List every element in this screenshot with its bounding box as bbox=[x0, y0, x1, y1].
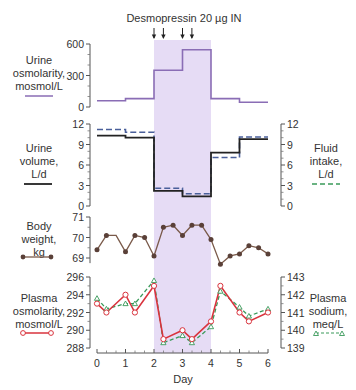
body-weight-label-2: weight, bbox=[21, 233, 57, 245]
urine-volume-tick-label: 9 bbox=[78, 139, 84, 151]
x-tick-label: 6 bbox=[265, 357, 271, 369]
plasma-osmolarity-point bbox=[265, 310, 270, 315]
plasma-osmolarity-point bbox=[151, 283, 156, 288]
plasma-osm-label-1: Plasma bbox=[21, 292, 59, 304]
dose-arrowhead bbox=[180, 35, 184, 40]
plasma-sodium-point bbox=[237, 305, 242, 310]
body-weight-point bbox=[171, 223, 176, 228]
plasma-tick-label: 141 bbox=[287, 307, 305, 319]
urine-volume-tick-label: 0 bbox=[287, 200, 293, 212]
plasma-tick-label: 142 bbox=[287, 289, 305, 301]
plasma-osmolarity-point bbox=[237, 310, 242, 315]
plasma-na-legend-marker bbox=[314, 331, 319, 336]
plasma-tick-label: 139 bbox=[287, 342, 305, 354]
urine-volume-tick-label: 3 bbox=[78, 180, 84, 192]
body-weight-point bbox=[152, 253, 157, 258]
plasma-osmolarity-point bbox=[161, 337, 166, 342]
body-weight-tick-label: 70 bbox=[72, 232, 84, 244]
plasma-osmolarity-point bbox=[246, 319, 251, 324]
chart-title: Desmopressin 20 µg IN bbox=[126, 12, 241, 24]
x-axis-label: Day bbox=[173, 373, 193, 385]
urine-volume-tick-label: 12 bbox=[287, 118, 299, 130]
plasma-na-label-1: Plasma bbox=[310, 292, 348, 304]
urine-volume-tick-label: 6 bbox=[78, 159, 84, 171]
plasma-osm-label-3: mosmol/L bbox=[15, 318, 63, 330]
plasma-osmolarity-point bbox=[208, 319, 213, 324]
plasma-sodium-point bbox=[94, 296, 99, 301]
plasma-osmolarity-point bbox=[104, 310, 109, 315]
body-weight-label-3: kg bbox=[33, 246, 45, 258]
body-weight-point bbox=[266, 251, 271, 256]
plasma-osmolarity-point bbox=[218, 283, 223, 288]
body-weight-legend-marker bbox=[49, 255, 54, 260]
body-weight-tick-label: 71 bbox=[72, 211, 84, 223]
body-weight-point bbox=[256, 245, 261, 250]
urine-volume-tick-label: 6 bbox=[287, 159, 293, 171]
urine-vol-label-1: Urine bbox=[26, 142, 52, 154]
body-weight-point bbox=[95, 247, 100, 252]
plasma-tick-label: 294 bbox=[66, 289, 84, 301]
x-tick-label: 2 bbox=[151, 357, 157, 369]
plasma-tick-label: 143 bbox=[287, 271, 305, 283]
plasma-osmolarity-point bbox=[94, 301, 99, 306]
body-weight-point bbox=[123, 249, 128, 254]
plasma-tick-label: 292 bbox=[66, 307, 84, 319]
body-weight-point bbox=[161, 225, 166, 230]
x-tick-label: 4 bbox=[208, 357, 214, 369]
body-weight-point bbox=[189, 223, 194, 228]
plasma-na-label-3: meq/L bbox=[313, 318, 344, 330]
fluid-intake-label-2: intake, bbox=[310, 155, 342, 167]
urine-osmolarity-tick-label: 600 bbox=[66, 38, 84, 50]
urine-osmolarity-tick-label: 0 bbox=[78, 101, 84, 113]
plasma-osmolarity-point bbox=[132, 310, 137, 315]
x-tick-label: 1 bbox=[123, 357, 129, 369]
body-weight-point bbox=[180, 233, 185, 238]
plasma-tick-label: 296 bbox=[66, 271, 84, 283]
urine-volume-tick-label: 12 bbox=[72, 118, 84, 130]
plasma-osm-legend-marker bbox=[49, 331, 54, 336]
urine-osm-label-1: Urine bbox=[26, 54, 52, 66]
x-tick-label: 5 bbox=[237, 357, 243, 369]
body-weight-point bbox=[237, 251, 242, 256]
dose-arrowhead bbox=[152, 35, 156, 40]
body-weight-point bbox=[246, 243, 251, 248]
plasma-tick-label: 140 bbox=[287, 324, 305, 336]
urine-osmolarity-tick-label: 300 bbox=[66, 70, 84, 82]
plasma-osm-legend-marker bbox=[21, 331, 26, 336]
plasma-osmolarity-point bbox=[123, 292, 128, 297]
body-weight-point bbox=[218, 262, 223, 267]
plasma-osmolarity-point bbox=[180, 328, 185, 333]
plasma-osmolarity-point bbox=[189, 337, 194, 342]
plasma-osm-label-2: osmolarity, bbox=[13, 305, 65, 317]
body-weight-point bbox=[104, 233, 109, 238]
plasma-tick-label: 288 bbox=[66, 342, 84, 354]
x-tick-label: 3 bbox=[180, 357, 186, 369]
dose-arrowhead bbox=[161, 35, 165, 40]
body-weight-point bbox=[209, 237, 214, 242]
plasma-na-label-2: sodium, bbox=[309, 305, 348, 317]
urine-vol-label-3: L/d bbox=[31, 168, 46, 180]
urine-osm-label-2: osmolarity, bbox=[13, 67, 65, 79]
plasma-tick-label: 290 bbox=[66, 324, 84, 336]
desmopressin-chart: 0300600036912036912697071288290292294296… bbox=[0, 0, 356, 390]
urine-osm-label-3: mosmol/L bbox=[15, 80, 63, 92]
body-weight-label-1: Body bbox=[26, 220, 52, 232]
x-tick-label: 0 bbox=[94, 357, 100, 369]
body-weight-point bbox=[228, 253, 233, 258]
urine-vol-label-2: volume, bbox=[20, 155, 59, 167]
urine-volume-tick-label: 9 bbox=[287, 139, 293, 151]
body-weight-legend-marker bbox=[21, 255, 26, 260]
body-weight-point bbox=[199, 223, 204, 228]
dose-arrowhead bbox=[190, 35, 194, 40]
body-weight-point bbox=[142, 235, 147, 240]
urine-volume-tick-label: 3 bbox=[287, 180, 293, 192]
fluid-intake-label-1: Fluid bbox=[314, 142, 338, 154]
plasma-na-legend-marker bbox=[340, 331, 345, 336]
fluid-intake-label-3: L/d bbox=[318, 168, 333, 180]
body-weight-tick-label: 69 bbox=[72, 252, 84, 264]
body-weight-point bbox=[132, 233, 137, 238]
